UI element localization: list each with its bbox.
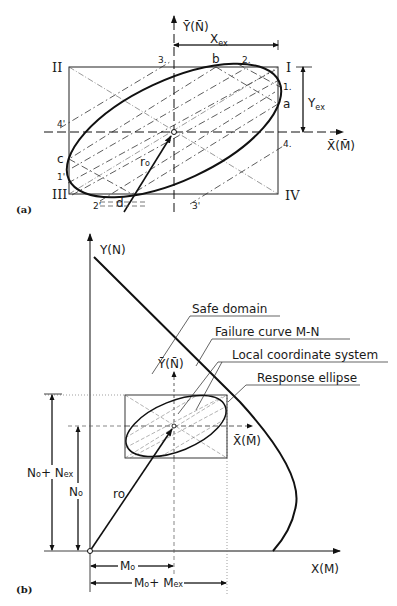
panel-b-label: (b) — [16, 584, 32, 595]
line-label-3: 3. — [158, 55, 167, 65]
local-origin — [172, 130, 177, 135]
quadrant-III: III — [52, 187, 67, 202]
point-b: b — [212, 52, 220, 66]
line-label-4-prime: 4' — [57, 119, 65, 129]
quadrant-IV: IV — [285, 188, 300, 203]
line-label-1: 1. — [283, 82, 292, 92]
x-ex-label: Xex — [210, 32, 228, 48]
line-label-4: 4. — [283, 139, 292, 149]
line-label-1-prime: 1' — [57, 172, 65, 182]
point-d: d — [116, 196, 124, 210]
panel-a-label: (a) — [16, 204, 32, 215]
local-x-label: X̄(M̄) — [233, 434, 261, 448]
x-axis-label: X(M) — [311, 562, 339, 576]
panel-a: Xex Yex Ȳ(N̄) X̄(M̄) I II III IV a b c d… — [16, 16, 355, 225]
callout-failure-curve: Failure curve M-N — [215, 325, 319, 339]
x-bar-axis-label: X̄(M̄) — [327, 139, 355, 153]
y-bar-axis-label: Ȳ(N̄) — [182, 20, 209, 34]
r0-label: ro — [113, 487, 125, 501]
line-label-2-prime: 2' — [93, 201, 101, 211]
y-ex-label: Yex — [307, 96, 325, 112]
figure: Xex Yex Ȳ(N̄) X̄(M̄) I II III IV a b c d… — [0, 0, 397, 606]
callout-response-ellipse: Response ellipse — [257, 371, 357, 385]
callout-safe-domain: Safe domain — [192, 302, 267, 316]
line-label-2: 2. — [242, 55, 251, 65]
local-origin — [172, 424, 176, 428]
global-origin — [88, 549, 93, 554]
r0-label: ro — [140, 155, 150, 169]
panel-b: Y(N) X(M) Ȳ(N̄) X̄(M̄) ro — [16, 234, 388, 596]
point-c: c — [57, 152, 64, 166]
quadrant-I: I — [286, 60, 291, 75]
r0-vector — [90, 429, 172, 551]
point-a: a — [283, 97, 290, 111]
local-y-label: Ȳ(N̄) — [157, 357, 184, 371]
line-label-3-prime: 3' — [192, 201, 200, 211]
quadrant-II: II — [52, 60, 62, 75]
callout-local-coordinate-system: Local coordinate system — [232, 348, 378, 362]
y-axis-label: Y(N) — [99, 243, 126, 257]
